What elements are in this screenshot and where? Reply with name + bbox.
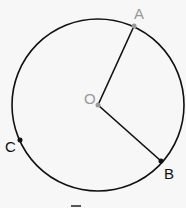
label-a: A [134,5,144,22]
label-c: C [5,138,16,155]
circle-diagram: A O B C [0,0,186,208]
point-a [132,24,137,29]
point-c [18,138,23,143]
point-o [96,103,101,108]
point-b [159,159,164,164]
label-o: O [84,90,96,107]
label-b: B [164,165,174,182]
radius-ob [98,105,161,161]
radius-oa [98,26,134,105]
cropped-caption-mark [71,205,81,207]
